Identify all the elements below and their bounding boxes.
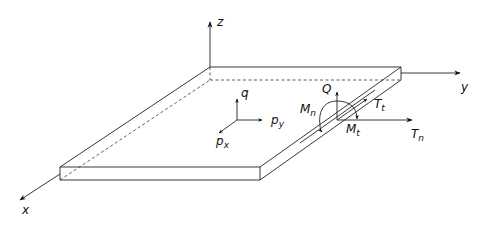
q-label: q [241, 86, 249, 100]
y-axis-label: y [460, 80, 469, 94]
x-axis-label: x [21, 203, 30, 217]
py-label: py [270, 113, 285, 129]
z-axis-label: z [216, 15, 224, 29]
y-axis: y [401, 73, 469, 94]
load-vectors: q py px [215, 86, 285, 150]
Mn-label: Mn [300, 102, 316, 118]
Tt-label: Tt [374, 97, 385, 113]
diagram-svg: z y x q py px Q [0, 0, 484, 225]
x-axis: x [20, 174, 60, 217]
Q-label: Q [322, 82, 331, 96]
px-label: px [215, 134, 230, 150]
Tn-label: Tn [411, 127, 424, 143]
z-axis: z [210, 15, 224, 67]
plate-diagram: z y x q py px Q [0, 0, 484, 225]
Mt-label: Mt [346, 122, 360, 138]
edge-resultants: Q Tt Tn Mn Mt [300, 82, 424, 143]
